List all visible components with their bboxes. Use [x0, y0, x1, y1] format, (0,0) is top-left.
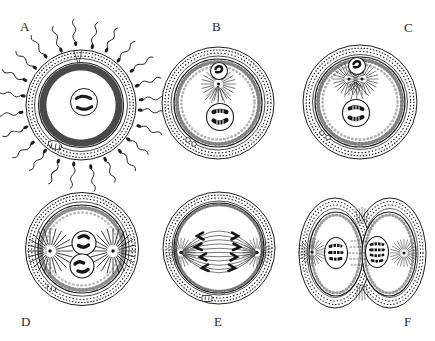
male-pronucleus [72, 231, 96, 255]
centrosome-dot [111, 249, 114, 252]
centrosome-dot [48, 249, 51, 252]
sperm-pronucleus [211, 63, 228, 80]
spindle-pole-dot [255, 251, 258, 254]
female-pronucleus [70, 254, 94, 278]
panel-c-label: C [404, 20, 413, 36]
spindle-pole-dot [179, 251, 182, 254]
panel-b-label: B [212, 19, 221, 35]
panel-f-two-cell-stage [298, 198, 426, 308]
panel-d-label: D [21, 314, 31, 330]
panel-f-label: F [404, 314, 412, 330]
chromosome [372, 261, 382, 262]
panel-b-fertilized-egg-single-aster [162, 47, 274, 159]
sperm-pronucleus [349, 58, 366, 75]
polar-body-capsule [202, 296, 212, 302]
panel-c-fertilized-egg-double-aster [303, 45, 417, 159]
figure-canvas [0, 0, 435, 341]
panel-e-label: E [214, 314, 222, 330]
chromosome [331, 259, 342, 260]
centrosome-dot [361, 78, 364, 81]
centrosome-dot [348, 78, 351, 81]
embryology-figure: A B C D E F [0, 0, 435, 341]
egg-pronucleus [343, 100, 370, 127]
egg-pronucleus [207, 104, 234, 131]
centrosome-dot [403, 252, 406, 255]
egg-nucleus [71, 89, 98, 116]
panel-a-label: A [20, 19, 30, 35]
panel-e-mitotic-spindle-anaphase [163, 192, 275, 304]
centrosome-dot [217, 82, 220, 85]
panel-a-egg-with-sperm [0, 19, 166, 192]
chromosome [330, 245, 341, 246]
daughter-nucleus-right [366, 237, 389, 268]
centrosome-dot [311, 251, 314, 254]
panel-d-pronuclei-with-spindle-poles [26, 193, 139, 306]
daughter-nucleus-left [325, 238, 348, 269]
